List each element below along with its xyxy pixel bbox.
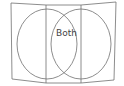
- left-circle: [17, 9, 77, 79]
- venn-diagram-canvas: Both: [0, 0, 124, 86]
- intersection-label: Both: [56, 28, 77, 38]
